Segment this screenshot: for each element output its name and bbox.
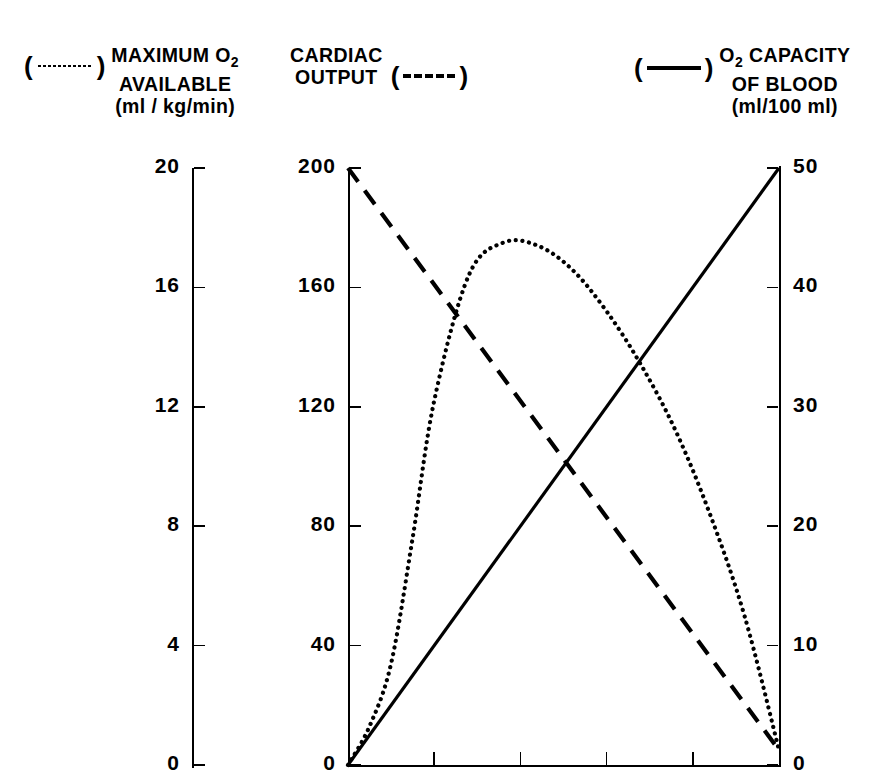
- figure-panel: ( ) MAXIMUM O2 AVAILABLE (ml / kg/min) C…: [0, 0, 887, 780]
- plot-curves: [0, 0, 887, 780]
- series-max-o2-available-line: [348, 240, 779, 765]
- series-o2-capacity-line: [348, 168, 779, 765]
